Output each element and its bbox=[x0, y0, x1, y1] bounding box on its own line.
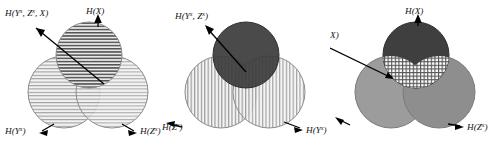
label-top-right: H(X) bbox=[85, 6, 104, 16]
label-top-left: H(Yx, Zx, X) bbox=[4, 8, 48, 18]
label-bottom-left: H(Zx) bbox=[161, 122, 183, 132]
panel-right: I(Yx, Zx−, X) H(X) H(Yx) H(Zx) bbox=[330, 0, 501, 143]
label-bottom-right: H(Zx) bbox=[466, 122, 488, 132]
panel-left: H(Yx, Zx, X) H(X) H(Yx) H(Zx) bbox=[0, 0, 167, 143]
arrow-bottom-left bbox=[39, 124, 54, 136]
arrow-bottom-left bbox=[335, 117, 350, 125]
label-bottom-right: H(Yx) bbox=[305, 125, 327, 135]
circle-X-top bbox=[56, 22, 122, 88]
circle-X-top bbox=[213, 22, 279, 88]
label-top-right: H(X) bbox=[404, 6, 423, 16]
arrow-bottom-right bbox=[122, 124, 137, 136]
figure-venn-panels: H(Yx, Zx, X) H(X) H(Yx) H(Zx) bbox=[0, 0, 501, 143]
label-bottom-left: H(Yx) bbox=[4, 126, 26, 136]
label-bottom-right: H(Zx) bbox=[139, 126, 161, 136]
label-top-left: H(Yx, Zx) bbox=[174, 11, 208, 21]
arrow-bottom-right bbox=[448, 124, 464, 130]
panel-middle: H(Yx, Zx) H(Zx) H(Yx) bbox=[160, 0, 335, 143]
arrow-bottom-right bbox=[284, 122, 303, 133]
label-top-left: I(Yx, Zx−, X) bbox=[330, 30, 339, 40]
